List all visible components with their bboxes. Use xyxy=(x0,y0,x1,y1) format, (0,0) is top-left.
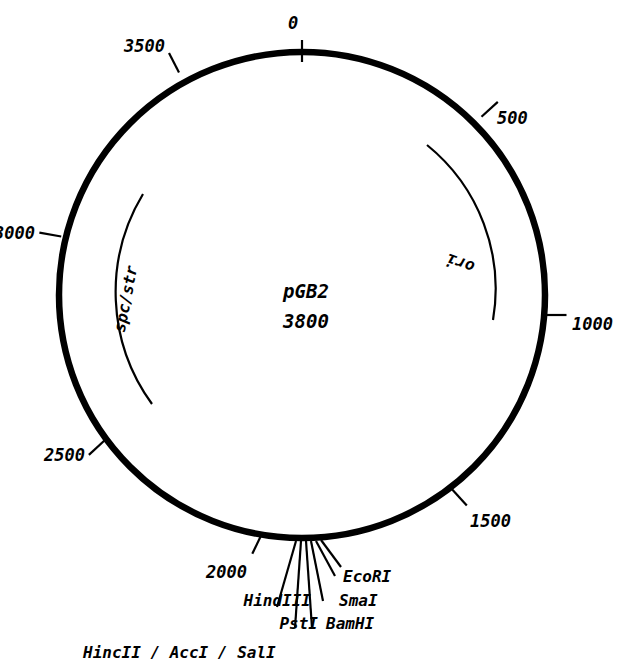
site-label-hindiii: HindIII xyxy=(243,591,312,610)
tickmark-3500 xyxy=(169,53,179,73)
site-label-bamhi: BamHI xyxy=(325,614,375,633)
site-label-ecori: EcoRI xyxy=(343,567,392,586)
tick-label-0: 0 xyxy=(288,13,298,33)
plasmid-name-label: pGB2 xyxy=(282,280,329,302)
tick-label-3000: 3000 xyxy=(0,223,35,243)
site-label-smai: SmaI xyxy=(339,591,378,610)
tick-label-2000: 2000 xyxy=(205,562,247,582)
tick-label-1000: 1000 xyxy=(572,314,613,334)
feature-label-ori: ori xyxy=(443,250,477,277)
tick-label-3500: 3500 xyxy=(123,36,165,56)
feature-label-spc-str: spc/str xyxy=(110,264,142,334)
feature-arc-ori xyxy=(427,145,496,320)
site-label-hincii-acci-sali: HincII / AccI / SalI xyxy=(82,643,276,662)
site-label-psti: PstI xyxy=(279,614,318,633)
plasmid-map-figure: 0 500 1000 1500 2000 2500 3000 3500 pGB2… xyxy=(0,0,617,670)
tickmark-3000 xyxy=(39,233,61,237)
tick-label-1500: 1500 xyxy=(470,511,511,531)
tickmark-2500 xyxy=(89,440,105,455)
tickmark-1500 xyxy=(452,489,467,505)
tickmark-500 xyxy=(482,102,498,117)
plasmid-diagram: 0 500 1000 1500 2000 2500 3000 3500 pGB2… xyxy=(0,0,617,670)
plasmid-size-label: 3800 xyxy=(282,310,329,332)
tick-label-500: 500 xyxy=(497,108,528,128)
tick-label-2500: 2500 xyxy=(43,445,85,465)
